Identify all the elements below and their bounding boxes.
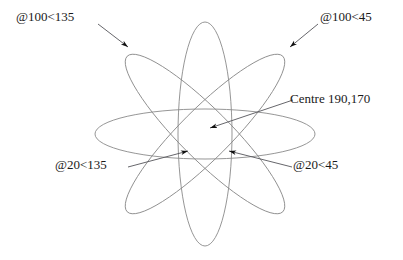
ellipse-group: [95, 22, 315, 246]
ellipse-45deg: [110, 39, 301, 230]
label-at-100-135: @100<135: [16, 10, 74, 23]
leader-line-group: [98, 24, 318, 167]
leader-100-135: [98, 24, 128, 47]
leader-100-45: [290, 24, 318, 47]
label-at-100-45: @100<45: [320, 10, 372, 23]
label-centre-point: Centre 190,170: [290, 92, 370, 105]
label-at-20-135: @20<135: [55, 158, 107, 171]
ellipse-90deg: [178, 22, 232, 246]
leader-centre: [210, 100, 293, 128]
ellipse-diagram-figure: [0, 0, 403, 260]
leader-20-45: [229, 151, 292, 167]
ellipse-0deg: [95, 109, 315, 159]
ellipse-135deg: [110, 39, 301, 230]
diagram-canvas: @100<135 @100<45 Centre 190,170 @20<135 …: [0, 0, 403, 260]
label-at-20-45: @20<45: [293, 158, 338, 171]
